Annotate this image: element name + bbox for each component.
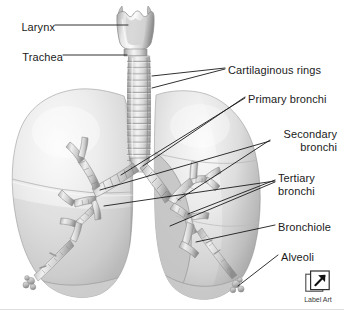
label-trachea: Trachea [0,51,63,64]
label-secondary-bronchi: Secondary bronchi [273,128,337,154]
label-art-button[interactable]: Label Art [298,270,338,308]
bottom-divider [0,309,344,310]
respiratory-system-figure: Larynx Trachea Cartilaginous rings Prima… [0,0,344,314]
label-art-caption: Label Art [304,296,332,304]
alveoli [23,276,36,290]
label-cartilaginous-rings: Cartilaginous rings [228,64,321,77]
label-larynx: Larynx [0,21,55,34]
trachea [127,56,151,162]
label-alveoli: Alveoli [281,251,314,264]
diagonal-arrow-icon [305,270,331,295]
anatomy-illustration [0,0,344,314]
label-bronchiole: Bronchiole [278,221,331,234]
label-primary-bronchi: Primary bronchi [248,93,327,106]
label-tertiary-bronchi: Tertiary bronchi [278,172,340,198]
larynx [117,6,154,56]
